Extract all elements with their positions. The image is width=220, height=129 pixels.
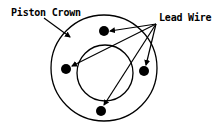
piston-crown-diagram	[0, 0, 220, 129]
sensor-dot-bottom	[96, 106, 106, 116]
sensor-dot-left	[61, 64, 71, 74]
lead-wire-line-bottom	[104, 24, 156, 105]
sensor-dot-top	[99, 26, 109, 36]
sensor-dot-right	[139, 66, 149, 76]
lead-wire-line-right	[146, 24, 156, 65]
piston-crown-leader-arrow	[44, 18, 70, 37]
